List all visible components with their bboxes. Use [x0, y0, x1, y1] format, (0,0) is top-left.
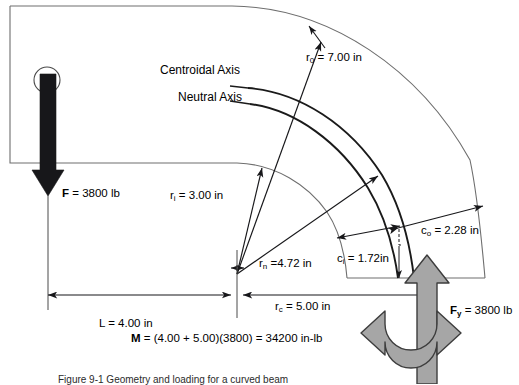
length-value: = 4.00 in	[105, 317, 153, 329]
outer-arc	[232, 6, 485, 278]
outer-radius-value: = 7.00 in	[314, 51, 362, 63]
applied-force-symbol: F	[62, 187, 69, 199]
applied-force-arrow	[32, 67, 64, 310]
moment-equation-value: = (4.00 + 5.00)(3800) = 34200 in-lb	[141, 332, 323, 344]
inner-radius-subscript: i	[174, 194, 176, 203]
co-value: = 2.28 in	[431, 224, 479, 236]
moment-arrow	[361, 311, 461, 368]
reaction-force-subscript: y	[457, 309, 461, 318]
outer-radius-subscript: 0	[310, 56, 314, 65]
centroidal-axis-label: Centroidal Axis	[160, 64, 240, 76]
co-subscript: o	[427, 229, 431, 238]
co-symbol: c	[421, 224, 427, 236]
centroid-radius-value: = 5.00 in	[283, 300, 331, 312]
neutral-radius-value: =4.72 in	[267, 257, 311, 269]
ci-label: ci = 1.72in	[337, 253, 389, 265]
centroidal-axis-arc	[230, 86, 414, 278]
ci-subscript: i	[343, 257, 345, 266]
co-label: co = 2.28 in	[421, 225, 479, 237]
reaction-force-value: = 3800 lb	[461, 304, 512, 316]
applied-force-label: F = 3800 lb	[62, 188, 120, 200]
moment-equation-label: M = (4.00 + 5.00)(3800) = 34200 in-lb	[131, 333, 322, 345]
outer-radius-label: r0 = 7.00 in	[306, 52, 362, 64]
applied-force-value: = 3800 lb	[69, 187, 120, 199]
reaction-force-symbol: F	[450, 304, 457, 316]
ci-symbol: c	[337, 252, 343, 264]
neutral-axis-label: Neutral Axis	[178, 91, 242, 103]
length-label: L = 4.00 in	[99, 318, 153, 330]
label-leader-lines	[309, 26, 325, 48]
centroid-radius-subscript: c	[279, 305, 283, 314]
centroid-radius-label: rc = 5.00 in	[275, 301, 330, 313]
inner-radius-value: = 3.00 in	[176, 189, 224, 201]
figure-caption: Figure 9-1 Geometry and loading for a cu…	[58, 374, 288, 385]
reaction-force-label: Fy = 3800 lb	[450, 305, 512, 317]
inner-radius-label: ri = 3.00 in	[170, 190, 223, 202]
ci-value: = 1.72in	[345, 252, 389, 264]
neutral-radius-label: rn =4.72 in	[259, 258, 312, 270]
radial-dimension-lines	[231, 42, 378, 318]
moment-symbol: M	[131, 332, 141, 344]
neutral-radius-subscript: n	[263, 262, 267, 271]
